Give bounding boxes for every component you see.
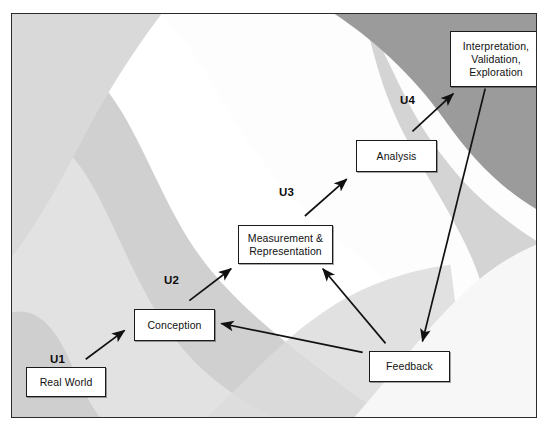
node-measurement-representation-label: Measurement & Representation xyxy=(244,232,327,258)
figure-canvas: Real World Conception Measurement & Repr… xyxy=(0,0,549,430)
node-conception[interactable]: Conception xyxy=(134,309,215,341)
node-real-world-label: Real World xyxy=(36,376,97,389)
node-real-world[interactable]: Real World xyxy=(26,367,106,397)
node-analysis[interactable]: Analysis xyxy=(356,140,437,172)
step-label-u4: U4 xyxy=(400,94,415,106)
node-interpretation-validation-exploration[interactable]: Interpretation, Validation, Exploration xyxy=(450,31,537,87)
node-feedback[interactable]: Feedback xyxy=(369,351,450,382)
diagram-frame: Real World Conception Measurement & Repr… xyxy=(11,13,537,418)
node-feedback-label: Feedback xyxy=(382,360,437,373)
step-label-u1: U1 xyxy=(50,353,65,365)
node-analysis-label: Analysis xyxy=(373,150,421,163)
node-interpretation-validation-exploration-label: Interpretation, Validation, Exploration xyxy=(459,40,533,79)
node-conception-label: Conception xyxy=(143,319,205,332)
step-label-u3: U3 xyxy=(279,186,294,198)
node-measurement-representation[interactable]: Measurement & Representation xyxy=(238,225,333,264)
step-label-u2: U2 xyxy=(164,274,179,286)
